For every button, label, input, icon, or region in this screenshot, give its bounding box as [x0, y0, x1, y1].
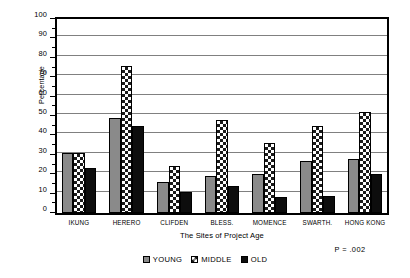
x-axis-tick-label: SWARTH. [294, 219, 342, 227]
legend-label: MIDDLE [201, 255, 232, 264]
gridline [57, 35, 387, 36]
gridline [57, 132, 387, 133]
gridline [57, 74, 387, 75]
x-axis-tick-label: HONG KONG [341, 219, 389, 227]
gridline [57, 55, 387, 56]
legend-label: YOUNG [153, 255, 182, 264]
bar-chart-figure: Percentage 0102030405060708090100 IKUNGH… [0, 0, 410, 278]
gridline [57, 191, 387, 192]
x-axis-title: The Sites of Project Age [55, 231, 389, 240]
x-axis-tick-label: MOMENCE [246, 219, 294, 227]
y-axis-tick-label: 40 [17, 127, 47, 135]
chart-legend: YOUNGMIDDLEOLD [0, 255, 410, 264]
y-axis-tick-label: 100 [17, 11, 47, 19]
gridline [57, 171, 387, 172]
y-axis-tick-label: 20 [17, 166, 47, 174]
y-axis-tick-label: 80 [17, 50, 47, 58]
gridline [57, 94, 387, 95]
legend-item-young: YOUNG [143, 255, 182, 264]
y-axis-tick-label: 70 [17, 69, 47, 77]
x-axis-tick-label: IKUNG [55, 219, 103, 227]
legend-label: OLD [251, 255, 268, 264]
x-axis-tick-label: BLESS. [198, 219, 246, 227]
legend-swatch-icon [241, 256, 248, 263]
x-axis-tick-label: CLIFDEN [150, 219, 198, 227]
legend-swatch-icon [143, 256, 150, 263]
legend-swatch-icon [191, 256, 198, 263]
gridline [57, 113, 387, 114]
x-axis-tick-label: HERERO [103, 219, 151, 227]
y-axis-tick-label: 90 [17, 30, 47, 38]
y-axis-tick-label: 60 [17, 89, 47, 97]
y-axis-tick-label: 0 [17, 205, 47, 213]
y-axis-tick-label: 10 [17, 186, 47, 194]
plot-area [55, 17, 389, 215]
legend-item-old: OLD [241, 255, 268, 264]
legend-item-middle: MIDDLE [191, 255, 232, 264]
y-axis-tick-label: 50 [17, 108, 47, 116]
p-value-annotation: P = .002 [300, 245, 400, 254]
gridline [57, 152, 387, 153]
y-axis-tick-label: 30 [17, 147, 47, 155]
gridlines [57, 19, 387, 213]
y-axis: 0102030405060708090100 [0, 17, 55, 215]
